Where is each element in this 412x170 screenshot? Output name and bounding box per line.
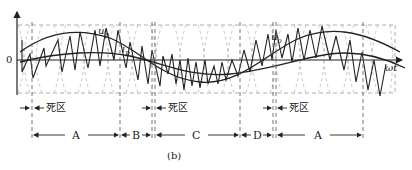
uo-label-sub: o [277,37,281,45]
uo-label: uo [271,32,282,45]
ip-label-sub: p [125,49,129,57]
figure-caption: (b) [167,151,181,161]
x-axis-label: ωt [385,63,397,73]
phase-control-waveform-diagram [0,0,412,170]
interval-b-label: B [132,130,140,141]
interval-a-label: A [72,130,80,141]
up-label: up [98,26,109,39]
ip-label: ip [122,44,130,57]
dead-zone-label-2: 死区 [168,103,188,113]
origin-label: 0 [6,55,12,65]
interval-a2-label: A [314,130,322,141]
interval-c-label: C [192,130,200,141]
interval-d-label: D [253,130,262,141]
dead-zone-label-3: 死区 [289,103,309,113]
dead-zone-label-1: 死区 [46,103,66,113]
up-label-sub: p [104,31,108,39]
